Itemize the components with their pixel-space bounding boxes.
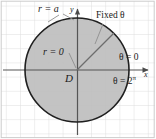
figure-canvas [0, 0, 156, 139]
theta-twopi-label: θ = 2π [113, 75, 136, 87]
radius-label: r = a [38, 4, 59, 14]
polar-disk-figure: r = a y Fixed θ r = 0 D θ = 0 θ = 2π x [0, 0, 156, 139]
origin-label: r = 0 [43, 47, 64, 57]
theta-twopi-text: θ = 2 [113, 76, 132, 86]
x-axis-label: x [144, 71, 148, 79]
theta-zero-label: θ = 0 [119, 53, 138, 63]
theta-twopi-superscript: π [132, 74, 136, 82]
y-axis-label: y [70, 6, 74, 14]
fixed-theta-label: Fixed θ [96, 11, 125, 21]
region-label: D [65, 73, 73, 84]
